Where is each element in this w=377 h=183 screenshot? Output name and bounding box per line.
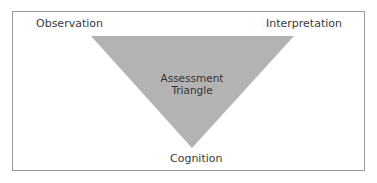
vertex-label-interpretation: Interpretation xyxy=(266,17,342,30)
center-label: Assessment Triangle xyxy=(152,72,232,96)
vertex-label-cognition: Cognition xyxy=(170,152,223,165)
vertex-label-observation: Observation xyxy=(36,17,103,30)
center-label-line2: Triangle xyxy=(152,84,232,96)
center-label-line1: Assessment xyxy=(152,72,232,84)
